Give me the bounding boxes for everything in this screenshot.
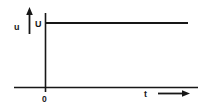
origin-label: 0 xyxy=(42,94,47,104)
step-function-figure: u U t 0 xyxy=(0,0,198,106)
step-function-plot: u U t 0 xyxy=(0,0,198,106)
u-axis-label: u xyxy=(14,22,20,32)
u-level-label: U xyxy=(35,19,42,29)
t-axis-label: t xyxy=(144,89,147,99)
u-direction-arrow-head-icon xyxy=(26,7,33,15)
t-direction-arrow-head-icon xyxy=(182,90,190,97)
